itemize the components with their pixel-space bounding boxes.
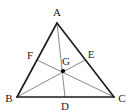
point-label-E: E xyxy=(88,49,95,60)
vertex-label-B: B xyxy=(5,93,12,104)
vertex-label-C: C xyxy=(118,93,125,104)
centroid-point-marker xyxy=(61,69,65,73)
centroid-label-G: G xyxy=(62,56,70,67)
point-label-D: D xyxy=(61,101,69,112)
vertex-label-A: A xyxy=(53,7,61,18)
triangle-centroid-figure: A B C D E F G xyxy=(0,0,131,112)
point-label-F: F xyxy=(27,50,33,61)
